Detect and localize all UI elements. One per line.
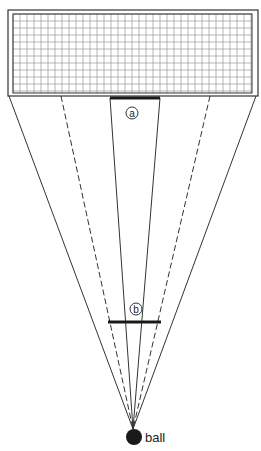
outer-left-line [9,96,133,429]
inner-right-line [133,98,160,429]
diagram-canvas: ab ball [0,0,261,451]
dashed-left-line [61,96,133,429]
label-text-a: a [129,108,135,119]
goal-angle-diagram: ab ball [0,0,261,451]
ball: ball [126,429,165,445]
label-text-b: b [133,304,139,315]
marker-a: a [110,98,160,119]
goal [8,10,258,96]
markers: ab [108,98,161,322]
marker-b: b [108,303,161,322]
goal-frame [8,10,258,96]
shooting-angle-lines [9,96,256,429]
dashed-right-line [133,96,210,429]
inner-left-line [110,98,133,429]
outer-right-line [133,96,256,429]
ball-label: ball [145,430,165,445]
ball-icon [126,429,142,445]
